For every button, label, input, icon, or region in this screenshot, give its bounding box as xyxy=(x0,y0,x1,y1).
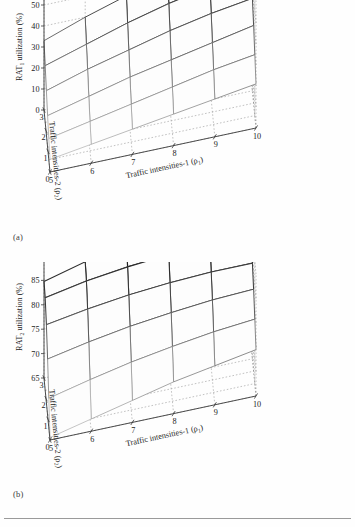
x-axis-title: Traffic intensities-1 (ρ1) xyxy=(125,155,204,181)
x-tick-label: 10 xyxy=(253,400,261,409)
surface-plot-b-canvas: 65707580859056789100123RAT2 utilization … xyxy=(0,262,355,520)
surface-plot-b: 65707580859056789100123RAT2 utilization … xyxy=(0,262,355,520)
x-title-tail: ) xyxy=(199,423,204,432)
y-tick-label: 1 xyxy=(43,422,47,431)
surface-mesh xyxy=(44,262,256,438)
z-title-main: RAT xyxy=(15,335,24,350)
x-tick-label: 7 xyxy=(131,158,135,167)
x-axis-title-text: Traffic intensities-1 (ρ1) xyxy=(125,155,204,181)
y-title-tail: ) xyxy=(55,465,64,469)
y-tick-label: 1 xyxy=(43,154,47,163)
z-title-tail: utilization (%) xyxy=(15,13,24,63)
y-tick-label: 2 xyxy=(41,401,45,410)
x-title-main: Traffic intensities-1 (ρ xyxy=(125,424,198,448)
x-tick-label: 5 xyxy=(49,444,53,453)
z-tick-label: 30 xyxy=(31,43,39,52)
z-tick-label: 10 xyxy=(31,85,39,94)
x-tick-label: 7 xyxy=(131,426,135,435)
y-tick-label: 2 xyxy=(41,133,45,142)
z-tick-label: 70 xyxy=(31,350,39,359)
x-tick-label: 6 xyxy=(90,167,94,176)
y-tick-label: 0 xyxy=(45,175,49,184)
z-tick-label: 50 xyxy=(31,1,39,10)
figure-container: 010203040506056789100123RAT1 utilization… xyxy=(0,0,355,527)
x-tick-label: 8 xyxy=(173,149,177,158)
z-tick-label: 20 xyxy=(31,64,39,73)
z-axis-title-text: RAT1 utilization (%) xyxy=(15,13,25,81)
y-tick-label: 3 xyxy=(39,113,43,122)
z-tick-label: 85 xyxy=(31,276,39,285)
y-tick-label: 3 xyxy=(39,381,43,390)
figure-bottom-divider xyxy=(4,518,351,519)
y-title-tail: ) xyxy=(55,197,64,201)
x-title-main: Traffic intensities-1 (ρ xyxy=(125,156,198,180)
surface-plot-a: 010203040506056789100123RAT1 utilization… xyxy=(0,0,355,258)
z-tick-label: 65 xyxy=(31,374,39,383)
z-tick-label: 40 xyxy=(31,22,39,31)
x-tick-label: 8 xyxy=(173,417,177,426)
y-tick-label: 0 xyxy=(45,443,49,452)
z-axis-title: RAT1 utilization (%) xyxy=(15,13,25,81)
z-axis-title: RAT2 utilization (%) xyxy=(15,283,25,351)
z-axis-title-text: RAT2 utilization (%) xyxy=(15,283,25,351)
x-tick-label: 9 xyxy=(214,140,218,149)
x-axis-title: Traffic intensities-1 (ρ1) xyxy=(125,423,204,449)
surface-plot-a-canvas: 010203040506056789100123RAT1 utilization… xyxy=(0,0,355,258)
x-tick-label: 10 xyxy=(253,132,261,141)
z-tick-label: 80 xyxy=(31,301,39,310)
x-tick-label: 9 xyxy=(214,408,218,417)
x-tick-label: 5 xyxy=(49,176,53,185)
x-axis-title-text: Traffic intensities-1 (ρ1) xyxy=(125,423,204,449)
x-tick-label: 6 xyxy=(90,435,94,444)
subfigure-label-b: (b) xyxy=(13,489,24,499)
z-title-tail: utilization (%) xyxy=(15,283,24,333)
subfigure-label-a: (a) xyxy=(13,232,23,242)
z-tick-label: 75 xyxy=(31,325,39,334)
z-title-main: RAT xyxy=(15,65,24,80)
surface-mesh xyxy=(44,0,256,159)
x-title-tail: ) xyxy=(199,155,204,164)
